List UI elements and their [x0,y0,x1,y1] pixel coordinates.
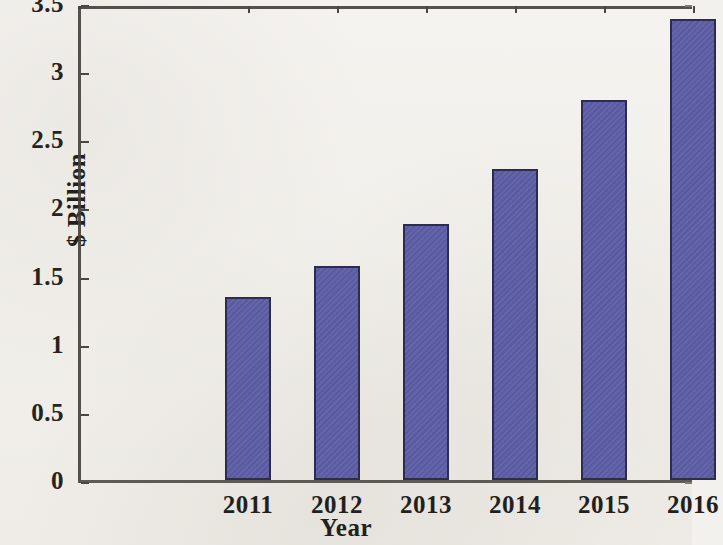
y-tick-label: 2.5 [0,126,64,154]
y-tick-mark [81,141,89,143]
y-tick-mark [81,5,89,7]
bar-2013 [403,224,449,480]
y-tick-mark [81,346,89,348]
x-tick-mark [248,6,250,13]
y-tick-label: 3.5 [0,0,64,18]
bar-2016 [670,19,716,480]
x-axis-title: Year [0,514,692,542]
x-tick-mark [426,6,428,13]
y-tick-mark [81,482,89,484]
y-tick-mark [81,278,89,280]
x-tick-mark [515,6,517,13]
y-tick-label: 1.5 [0,263,64,291]
x-tick-mark [693,6,695,13]
bar-2011 [225,297,271,480]
y-tick-label: 0.5 [0,399,64,427]
y-tick-mark [81,414,89,416]
y-tick-mark [81,73,89,75]
y-tick-label: 3 [0,58,64,86]
y-tick-mark-right [685,482,692,484]
axis-top-spine [78,6,692,9]
y-tick-label: 1 [0,331,64,359]
y-tick-mark-right [685,5,692,7]
axis-bottom-spine [78,480,692,483]
bar-2012 [314,266,360,480]
plot-area [78,6,692,483]
bar-2015 [581,100,627,480]
y-tick-label: 2 [0,194,64,222]
y-tick-label: 0 [0,467,64,495]
bar-2014 [492,169,538,480]
x-tick-mark [337,6,339,13]
y-tick-mark [81,209,89,211]
x-tick-mark [604,6,606,13]
axis-left-spine [78,6,81,483]
